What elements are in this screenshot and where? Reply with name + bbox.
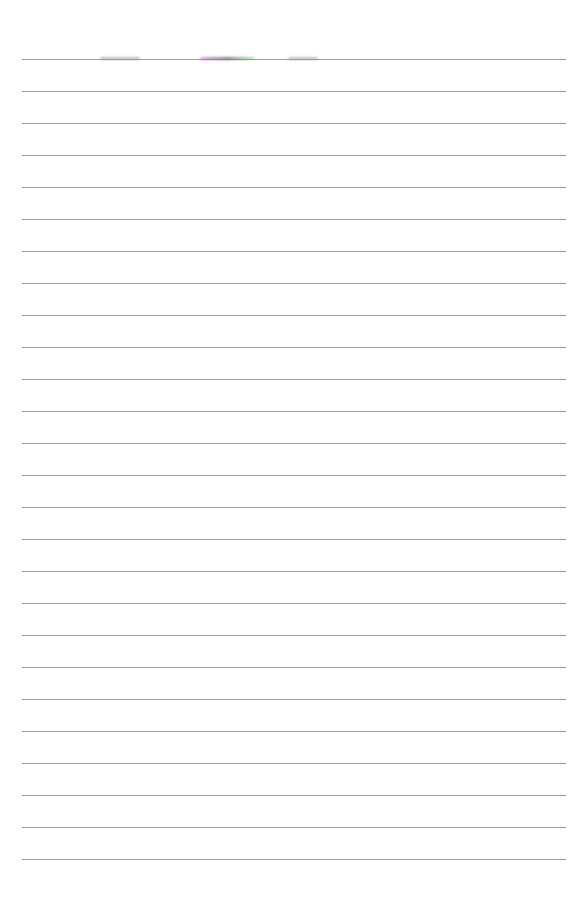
ruled-line [22,411,566,412]
ruled-line [22,347,566,348]
lined-paper-page [0,0,582,899]
ruled-line [22,155,566,156]
ruled-line [22,699,566,700]
ruled-line [22,475,566,476]
gray-smudge-left [100,57,140,60]
ruled-line [22,667,566,668]
ruled-line [22,187,566,188]
ruled-line [22,315,566,316]
ruled-line [22,283,566,284]
ruled-line [22,507,566,508]
ruled-line [22,763,566,764]
ruled-line [22,571,566,572]
ruled-line [22,795,566,796]
color-smudge-center [200,57,255,60]
ruled-line [22,603,566,604]
ruled-line [22,443,566,444]
ruled-line [22,859,566,860]
ruled-line [22,635,566,636]
ruled-line [22,731,566,732]
ruled-line [22,91,566,92]
ruled-line [22,251,566,252]
ruled-line [22,219,566,220]
gray-smudge-right [288,57,318,60]
ruled-line [22,123,566,124]
ruled-line [22,827,566,828]
ruled-line [22,539,566,540]
ruled-line [22,379,566,380]
